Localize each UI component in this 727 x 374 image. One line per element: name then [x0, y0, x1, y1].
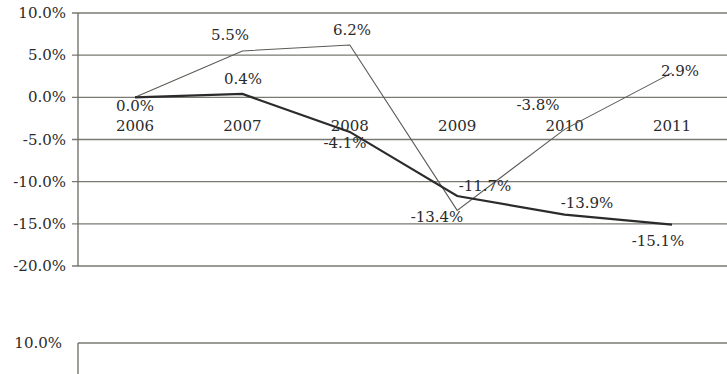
- y-tick-label: 10.0%: [18, 4, 66, 22]
- data-label: -4.1%: [323, 134, 366, 152]
- data-label: 0.4%: [224, 70, 262, 88]
- y-tick-labels: 10.0%5.0%0.0%-5.0%-10.0%-15.0%-20.0%: [13, 4, 66, 275]
- data-label: 2.9%: [661, 62, 699, 80]
- y-tick-label: 10.0%: [14, 334, 62, 352]
- second-chart-partial: 10.0%: [14, 334, 727, 374]
- y-tick-label: -10.0%: [13, 173, 66, 191]
- gridlines: [72, 13, 727, 266]
- y-tick-label: -5.0%: [23, 131, 66, 149]
- x-tick-label: 2006: [116, 117, 154, 135]
- data-label: -15.1%: [632, 232, 685, 250]
- x-tick-label: 2007: [223, 117, 261, 135]
- x-tick-label: 2010: [546, 117, 584, 135]
- data-label: -13.4%: [411, 208, 464, 226]
- y-tick-label: -15.0%: [13, 215, 66, 233]
- data-label: 6.2%: [333, 21, 371, 39]
- data-label: -11.7%: [459, 177, 512, 195]
- data-label: -3.8%: [516, 96, 559, 114]
- data-label: 5.5%: [211, 26, 249, 44]
- series-thin-line: [135, 45, 672, 210]
- data-label: -13.9%: [561, 194, 614, 212]
- x-tick-label: 2009: [438, 117, 476, 135]
- y-tick-label: 5.0%: [28, 46, 66, 64]
- line-chart: 10.0%5.0%0.0%-5.0%-10.0%-15.0%-20.0% 200…: [0, 0, 727, 374]
- data-label: 0.0%: [116, 97, 154, 115]
- x-tick-labels: 200620072008200920102011: [116, 117, 691, 135]
- y-tick-label: 0.0%: [28, 88, 66, 106]
- x-tick-label: 2011: [653, 117, 691, 135]
- y-tick-label: -20.0%: [13, 257, 66, 275]
